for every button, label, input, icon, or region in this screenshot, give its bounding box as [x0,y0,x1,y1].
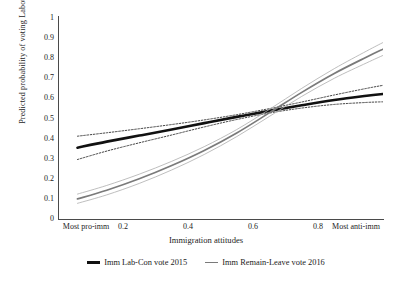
y-tick-label: 0.9 [36,34,54,42]
y-tick-label: 0.2 [36,175,54,183]
plot-area [58,18,383,219]
chart-legend: Imm Lab-Con vote 2015Imm Remain-Leave vo… [0,258,412,267]
chart-svg [58,18,383,219]
y-tick-label: 0.8 [36,54,54,62]
legend-swatch-icon [87,261,100,264]
series-line-remain-leave [78,49,384,199]
x-tick-label: 0.8 [313,222,323,232]
x-tick-label: 0.4 [183,222,193,232]
y-tick-label: 0.1 [36,195,54,203]
x-tick-label: 0.6 [248,222,258,232]
y-tick-label: 0.5 [36,115,54,123]
x-tick-label: Most anti-imm [332,222,380,232]
ci-lower-remain-leave [78,55,384,203]
legend-label: Imm Remain-Leave vote 2016 [222,258,325,267]
chart-figure: Predicted probability of voting Labour/R… [0,0,412,283]
y-tick-label: 0.3 [36,155,54,163]
ci-upper-lab-con [78,85,384,136]
legend-item[interactable]: Imm Lab-Con vote 2015 [87,258,187,267]
y-tick-label: 0.6 [36,94,54,102]
x-axis-label: Immigration attitudes [0,235,412,245]
x-axis-tick-labels: Most pro-imm0.20.40.60.8Most anti-imm [0,222,412,236]
legend-item[interactable]: Imm Remain-Leave vote 2016 [205,258,325,267]
x-tick-label: 0.2 [118,222,128,232]
y-axis-label: Predicted probability of voting Labour/R… [18,0,27,145]
x-axis-line [58,219,384,220]
legend-label: Imm Lab-Con vote 2015 [104,258,187,267]
x-tick-label: Most pro-imm [63,222,109,232]
y-tick-label: 0.7 [36,74,54,82]
y-tick-label: 1 [36,14,54,22]
legend-swatch-icon [205,262,218,264]
y-tick-label: 0.4 [36,135,54,143]
